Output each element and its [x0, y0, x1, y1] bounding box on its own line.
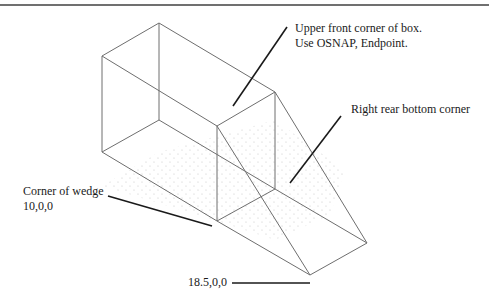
callout-right-rear-bottom: Right rear bottom corner [351, 102, 470, 117]
callout-line: Use OSNAP, Endpoint. [295, 36, 422, 51]
leader-upper-front-corner [233, 27, 287, 106]
callout-line: Corner of wedge [23, 184, 104, 199]
callout-line: Upper front corner of box. [295, 21, 422, 36]
callout-line: Right rear bottom corner [351, 102, 470, 117]
grid-plane [102, 120, 345, 240]
callout-upper-front-corner: Upper front corner of box. Use OSNAP, En… [295, 21, 422, 51]
callout-wedge-tip: 18.5,0,0 [188, 275, 227, 290]
callout-line: 10,0,0 [23, 199, 104, 214]
callout-corner-of-wedge: Corner of wedge 10,0,0 [23, 184, 104, 214]
callout-line: 18.5,0,0 [188, 275, 227, 290]
